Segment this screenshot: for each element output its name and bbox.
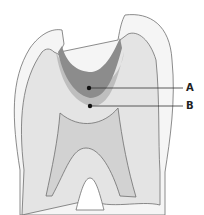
marker-dot-b	[88, 104, 92, 108]
marker-dot-a	[87, 86, 91, 90]
label-a: A	[186, 83, 194, 93]
tooth-diagram	[0, 0, 204, 215]
label-b: B	[186, 101, 194, 111]
